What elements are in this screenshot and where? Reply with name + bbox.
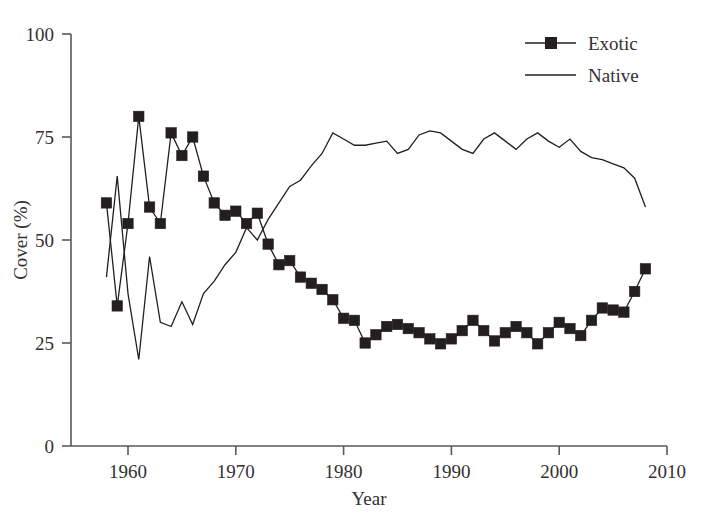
axes-group: [71, 34, 667, 446]
y-tick-label-50: 50: [35, 230, 54, 251]
data-point-exotic-1963: [155, 218, 165, 228]
data-series-group: [101, 111, 650, 359]
data-point-exotic-2002: [576, 330, 586, 340]
x-tick-label-2000: 2000: [540, 461, 578, 482]
legend-entry-native: Native: [525, 65, 639, 86]
data-point-exotic-1998: [532, 339, 542, 349]
cover-vs-year-line-chart: 0255075100 196019701980199020002010 Year…: [0, 0, 711, 531]
data-point-exotic-2008: [640, 264, 650, 274]
data-point-exotic-2004: [597, 303, 607, 313]
data-point-exotic-1965: [177, 150, 187, 160]
legend-exotic-label: Exotic: [588, 33, 638, 54]
series-exotic: [101, 111, 650, 349]
data-point-exotic-1997: [522, 328, 532, 338]
y-axis-title: Cover (%): [10, 200, 32, 280]
data-point-exotic-1972: [252, 208, 262, 218]
data-point-exotic-2001: [565, 323, 575, 333]
data-point-exotic-1967: [198, 171, 208, 181]
data-point-exotic-1981: [349, 315, 359, 325]
x-tick-label-2010: 2010: [648, 461, 686, 482]
data-point-exotic-1983: [371, 330, 381, 340]
data-point-exotic-1984: [382, 321, 392, 331]
data-point-exotic-1966: [187, 132, 197, 142]
x-tick-label-1990: 1990: [432, 461, 470, 482]
data-point-exotic-1964: [166, 128, 176, 138]
data-point-exotic-1976: [295, 272, 305, 282]
data-point-exotic-2003: [586, 315, 596, 325]
data-point-exotic-1999: [543, 328, 553, 338]
data-point-exotic-1973: [263, 239, 273, 249]
data-point-exotic-1992: [468, 315, 478, 325]
data-point-exotic-1975: [285, 255, 295, 265]
data-point-exotic-1979: [328, 295, 338, 305]
data-point-exotic-1987: [414, 328, 424, 338]
y-tick-label-0: 0: [45, 436, 55, 457]
data-point-exotic-1969: [220, 210, 230, 220]
data-point-exotic-1960: [123, 218, 133, 228]
data-point-exotic-1968: [209, 198, 219, 208]
x-tick-label-1980: 1980: [325, 461, 363, 482]
data-point-exotic-2006: [619, 307, 629, 317]
y-tick-group: 0255075100: [26, 24, 72, 457]
data-point-exotic-1970: [231, 206, 241, 216]
data-point-exotic-1982: [360, 338, 370, 348]
legend-entry-exotic: Exotic: [525, 33, 638, 54]
chart-figure: 0255075100 196019701980199020002010 Year…: [0, 0, 711, 531]
x-tick-group: 196019701980199020002010: [109, 446, 686, 482]
data-point-exotic-1959: [112, 301, 122, 311]
data-point-exotic-1996: [511, 321, 521, 331]
y-tick-label-75: 75: [35, 127, 54, 148]
data-point-exotic-2007: [629, 286, 639, 296]
legend-native-label: Native: [588, 65, 639, 86]
data-point-exotic-1991: [457, 325, 467, 335]
data-point-exotic-2000: [554, 317, 564, 327]
data-point-exotic-1990: [446, 334, 456, 344]
data-point-exotic-1958: [101, 198, 111, 208]
chart-legend: Exotic Native: [525, 33, 639, 86]
data-point-exotic-1977: [306, 278, 316, 288]
data-point-exotic-1994: [489, 336, 499, 346]
data-point-exotic-1978: [317, 284, 327, 294]
data-point-exotic-1974: [274, 260, 284, 270]
data-point-exotic-1989: [435, 339, 445, 349]
data-point-exotic-1985: [392, 319, 402, 329]
legend-exotic-square-marker: [545, 37, 557, 49]
x-axis-title: Year: [351, 488, 387, 509]
data-point-exotic-1995: [500, 328, 510, 338]
data-point-exotic-1988: [425, 334, 435, 344]
x-tick-label-1960: 1960: [109, 461, 147, 482]
y-tick-label-25: 25: [35, 333, 54, 354]
data-point-exotic-1980: [338, 313, 348, 323]
y-tick-label-100: 100: [26, 24, 55, 45]
data-point-exotic-1961: [134, 111, 144, 121]
data-point-exotic-1993: [479, 325, 489, 335]
x-tick-label-1970: 1970: [217, 461, 255, 482]
data-point-exotic-1962: [144, 202, 154, 212]
data-point-exotic-2005: [608, 305, 618, 315]
data-point-exotic-1986: [403, 323, 413, 333]
